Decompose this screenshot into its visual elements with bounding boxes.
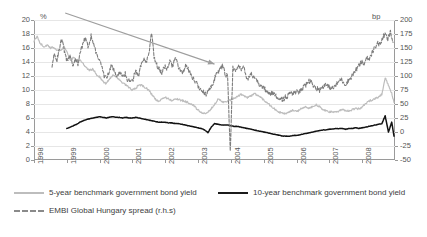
legend-label-10y: 10-year benchmark government bond yield <box>253 188 405 197</box>
left-tick-mark <box>31 34 34 35</box>
x-tick-mark <box>198 160 199 163</box>
legend-swatch-embi <box>14 210 44 212</box>
x-tick-mark <box>34 160 35 163</box>
x-tick-mark <box>132 160 133 163</box>
left-tick-label: 20 <box>8 16 30 24</box>
left-tick-mark <box>31 118 34 119</box>
x-tick-label: 2002 <box>168 147 176 164</box>
left-tick-label: 12 <box>8 72 30 80</box>
left-tick-mark <box>31 62 34 63</box>
left-tick-label: 10 <box>8 86 30 94</box>
left-tick-label: 18 <box>8 30 30 38</box>
annotation-layer <box>34 20 395 160</box>
x-tick-mark <box>297 160 298 163</box>
left-tick-mark <box>31 76 34 77</box>
plot-area <box>34 20 395 160</box>
right-tick-mark <box>395 118 398 119</box>
right-tick-label: 50 <box>400 100 426 108</box>
left-tick-label: 8 <box>8 100 30 108</box>
right-tick-label: 150 <box>400 44 426 52</box>
right-tick-label: 200 <box>400 16 426 24</box>
x-tick-label: 2004 <box>234 147 242 164</box>
legend-row-1: 5-year benchmark government bond yield 1… <box>14 188 424 206</box>
chart-figure: % bp 02468101214161820 -50-2502550751001… <box>0 0 427 237</box>
right-tick-mark <box>395 34 398 35</box>
x-tick-label: 1999 <box>70 147 78 164</box>
x-tick-label: 2008 <box>365 147 373 164</box>
right-tick-label: 0 <box>400 128 426 136</box>
legend-swatch-5y <box>14 192 44 194</box>
legend-label-5y: 5-year benchmark government bond yield <box>49 188 197 197</box>
legend-label-embi: EMBI Global Hungary spread (r.h.s) <box>49 206 176 215</box>
x-tick-mark <box>100 160 101 163</box>
right-tick-mark <box>395 160 398 161</box>
x-tick-label: 1998 <box>37 147 45 164</box>
chart-legend: 5-year benchmark government bond yield 1… <box>14 188 424 224</box>
legend-item-embi: EMBI Global Hungary spread (r.h.s) <box>14 206 176 215</box>
left-tick-mark <box>31 90 34 91</box>
left-tick-label: 14 <box>8 58 30 66</box>
right-tick-mark <box>395 90 398 91</box>
x-tick-mark <box>329 160 330 163</box>
x-tick-mark <box>165 160 166 163</box>
right-tick-label: 25 <box>400 114 426 122</box>
x-tick-mark <box>264 160 265 163</box>
left-tick-label: 0 <box>8 156 30 164</box>
x-tick-label: 2007 <box>332 147 340 164</box>
x-tick-mark <box>67 160 68 163</box>
right-tick-label: 125 <box>400 58 426 66</box>
right-tick-mark <box>395 104 398 105</box>
left-tick-mark <box>31 132 34 133</box>
right-tick-label: -50 <box>400 156 426 164</box>
left-tick-label: 4 <box>8 128 30 136</box>
left-tick-label: 6 <box>8 114 30 122</box>
right-tick-mark <box>395 76 398 77</box>
legend-item-10y: 10-year benchmark government bond yield <box>218 188 405 197</box>
right-tick-mark <box>395 20 398 21</box>
right-tick-label: 100 <box>400 72 426 80</box>
left-tick-label: 2 <box>8 142 30 150</box>
left-tick-mark <box>31 146 34 147</box>
right-tick-label: -25 <box>400 142 426 150</box>
left-tick-label: 16 <box>8 44 30 52</box>
legend-item-5y: 5-year benchmark government bond yield <box>14 188 197 197</box>
x-tick-label: 2006 <box>300 147 308 164</box>
right-tick-label: 75 <box>400 86 426 94</box>
legend-swatch-10y <box>218 192 248 194</box>
x-tick-label: 2005 <box>267 147 275 164</box>
right-tick-label: 175 <box>400 30 426 38</box>
right-tick-mark <box>395 48 398 49</box>
x-tick-label: 2000 <box>103 147 111 164</box>
declining-trend-arrow <box>65 13 214 65</box>
legend-row-2: EMBI Global Hungary spread (r.h.s) <box>14 206 424 224</box>
x-tick-label: 2001 <box>135 147 143 164</box>
x-tick-mark <box>231 160 232 163</box>
right-tick-mark <box>395 146 398 147</box>
left-tick-mark <box>31 48 34 49</box>
right-tick-mark <box>395 62 398 63</box>
left-tick-mark <box>31 104 34 105</box>
left-tick-mark <box>31 20 34 21</box>
x-tick-label: 2003 <box>201 147 209 164</box>
right-tick-mark <box>395 132 398 133</box>
x-tick-mark <box>362 160 363 163</box>
